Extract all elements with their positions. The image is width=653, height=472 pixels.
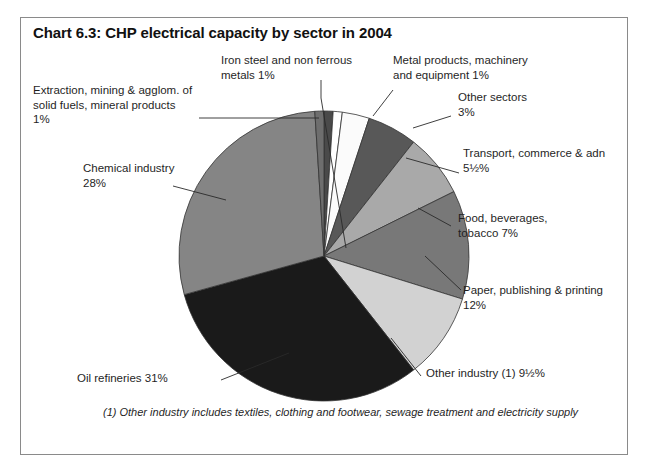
slice-label-iron-steel: Iron steel and non ferrous metals 1%	[221, 53, 401, 82]
pie-chart: Iron steel and non ferrous metals 1% Met…	[21, 18, 628, 455]
slice-label-transport: Transport, commerce & adn 5½%	[463, 146, 628, 175]
slice-label-food: Food, beverages, tobacco 7%	[458, 211, 608, 240]
slice-label-metal-products: Metal products, machinery and equipment …	[393, 53, 568, 82]
slice-label-oil-refineries: Oil refineries 31%	[77, 371, 227, 386]
slice-label-extraction: Extraction, mining & agglom. of solid fu…	[33, 83, 213, 127]
leader-line-metal-products	[373, 90, 393, 116]
chart-frame: Chart 6.3: CHP electrical capacity by se…	[20, 17, 628, 455]
slice-label-paper: Paper, publishing & printing 12%	[463, 283, 628, 312]
leader-line-other-sectors	[413, 116, 451, 128]
chart-footnote: (1) Other industry includes textiles, cl…	[103, 406, 578, 418]
slice-label-other-industry: Other industry (1) 9½%	[426, 366, 606, 381]
slice-label-chemical: Chemical industry 28%	[83, 161, 213, 190]
slice-label-other-sectors: Other sectors 3%	[458, 90, 608, 119]
